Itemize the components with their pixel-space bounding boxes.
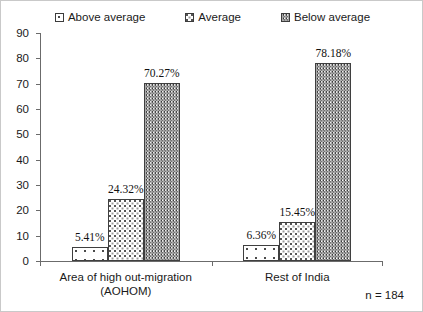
bar-above-average-group-1 bbox=[72, 247, 108, 261]
bar-value-label: 24.32% bbox=[108, 183, 143, 195]
y-axis-tick: 90 bbox=[36, 33, 40, 34]
y-axis-tick: 60 bbox=[36, 109, 40, 110]
y-axis-tick: 50 bbox=[36, 134, 40, 135]
bar-value-label: 78.18% bbox=[316, 47, 351, 59]
bar-average-group-1 bbox=[108, 199, 144, 261]
bar-below-average-group-1 bbox=[144, 83, 180, 261]
y-axis-tick-label: 60 bbox=[16, 103, 29, 115]
plot-area: 9080706050403020100 5.41%24.32%70.27%6.3… bbox=[40, 33, 383, 261]
y-axis-tick-label: 90 bbox=[16, 27, 29, 39]
y-axis-tick: 20 bbox=[36, 210, 40, 211]
y-axis-tick-label: 50 bbox=[16, 128, 29, 140]
legend-label-average: Average bbox=[198, 11, 241, 23]
y-axis-tick-label: 10 bbox=[16, 230, 29, 242]
legend-swatch-below-average-icon bbox=[281, 13, 290, 22]
chart-legend: Above average Average Below average bbox=[1, 7, 423, 27]
bar-below-average-group-2 bbox=[315, 63, 351, 261]
bar-value-label: 15.45% bbox=[280, 206, 315, 218]
bar-above-average-group-2 bbox=[243, 245, 279, 261]
bar-value-label: 6.36% bbox=[246, 229, 276, 241]
y-axis-tick-label: 30 bbox=[16, 179, 29, 191]
sample-size-annotation: n = 184 bbox=[365, 289, 404, 301]
category-label-line: Rest of India bbox=[265, 270, 330, 284]
legend-swatch-average-icon bbox=[185, 13, 194, 22]
x-axis-tick bbox=[212, 261, 213, 266]
legend-label-above-average: Above average bbox=[68, 11, 145, 23]
legend-item-below-average: Below average bbox=[281, 11, 370, 23]
y-axis-line bbox=[40, 33, 41, 261]
legend-label-below-average: Below average bbox=[294, 11, 370, 23]
category-label-line: Area of high out-migration bbox=[60, 270, 192, 284]
y-axis-tick-label: 70 bbox=[16, 78, 29, 90]
x-axis-category-label: Area of high out-migration(AOHOM) bbox=[60, 270, 192, 299]
bar-value-label: 70.27% bbox=[144, 67, 179, 79]
y-axis-tick-label: 20 bbox=[16, 204, 29, 216]
bar-value-label: 5.41% bbox=[75, 231, 105, 243]
legend-swatch-above-average-icon bbox=[55, 13, 64, 22]
y-axis-tick-label: 0 bbox=[23, 255, 29, 267]
x-axis-tick bbox=[40, 261, 41, 266]
legend-item-above-average: Above average bbox=[55, 11, 145, 23]
legend-item-average: Average bbox=[185, 11, 241, 23]
x-axis-tick bbox=[382, 261, 383, 266]
bar-average-group-2 bbox=[279, 222, 315, 261]
y-axis-tick: 70 bbox=[36, 84, 40, 85]
y-axis-tick-label: 40 bbox=[16, 154, 29, 166]
x-axis-category-label: Rest of India bbox=[265, 270, 330, 284]
y-axis-tick: 30 bbox=[36, 185, 40, 186]
y-axis-tick: 80 bbox=[36, 58, 40, 59]
y-axis-tick-label: 80 bbox=[16, 52, 29, 64]
y-axis-tick: 40 bbox=[36, 160, 40, 161]
y-axis-tick: 10 bbox=[36, 236, 40, 237]
category-label-line: (AOHOM) bbox=[60, 284, 192, 298]
bar-chart-figure: Above average Average Below average 9080… bbox=[0, 0, 423, 312]
